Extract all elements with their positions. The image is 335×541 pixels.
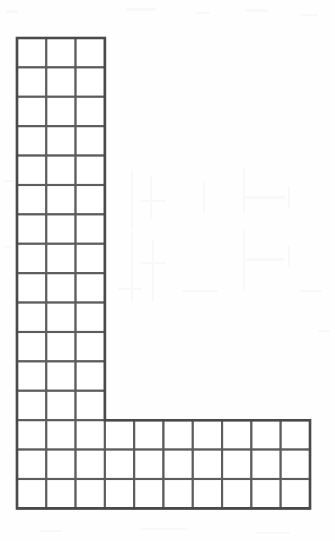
- grid-cell: [17, 361, 46, 390]
- grid-cell: [76, 214, 105, 243]
- grid-cell: [164, 420, 193, 449]
- grid-cell: [46, 156, 75, 185]
- grid-cell: [46, 420, 75, 449]
- grid-cell: [281, 450, 310, 479]
- grid-cell: [76, 67, 105, 96]
- grid-cell: [17, 97, 46, 126]
- grid-cell: [105, 420, 134, 449]
- grid-cell: [17, 332, 46, 361]
- grid-cell: [17, 479, 46, 508]
- grid-cell: [281, 479, 310, 508]
- grid-cell: [76, 273, 105, 302]
- grid-cell: [17, 38, 46, 67]
- grid-cell: [17, 156, 46, 185]
- grid-cell: [251, 420, 280, 449]
- grid-cell: [134, 450, 163, 479]
- scanned-page: [0, 0, 335, 541]
- grid-cell: [76, 450, 105, 479]
- grid-cell: [17, 303, 46, 332]
- grid-cell: [164, 450, 193, 479]
- grid-cell: [251, 479, 280, 508]
- grid-cell: [222, 450, 251, 479]
- grid-cell: [76, 391, 105, 420]
- grid-cell: [46, 97, 75, 126]
- grid-cell: [46, 479, 75, 508]
- grid-cell: [76, 244, 105, 273]
- grid-cell: [46, 273, 75, 302]
- grid-cell: [17, 391, 46, 420]
- grid-cell: [134, 420, 163, 449]
- grid-cell: [17, 67, 46, 96]
- grid-cell: [281, 420, 310, 449]
- grid-cell: [164, 479, 193, 508]
- grid-cell: [46, 332, 75, 361]
- grid-cell: [76, 156, 105, 185]
- grid-cell: [76, 185, 105, 214]
- grid-cell: [193, 420, 222, 449]
- grid-cell: [76, 126, 105, 155]
- grid-cell: [76, 479, 105, 508]
- grid-cell: [17, 420, 46, 449]
- grid-cell: [17, 185, 46, 214]
- grid-cell: [46, 391, 75, 420]
- grid-cell: [17, 214, 46, 243]
- grid-cell: [76, 97, 105, 126]
- grid-cell: [193, 450, 222, 479]
- grid-cell: [134, 479, 163, 508]
- grid-cell: [46, 126, 75, 155]
- grid-cell: [46, 361, 75, 390]
- grid-cell: [46, 38, 75, 67]
- grid-cell: [193, 479, 222, 508]
- grid-cell: [17, 244, 46, 273]
- grid-cell: [46, 67, 75, 96]
- l-shaped-grid-figure: [0, 0, 335, 541]
- grid-cell: [17, 273, 46, 302]
- grid-cell: [46, 303, 75, 332]
- grid-cell: [222, 420, 251, 449]
- grid-cell: [76, 38, 105, 67]
- grid-cell: [76, 420, 105, 449]
- grid-cell: [105, 450, 134, 479]
- grid-cell: [76, 303, 105, 332]
- grid-cell: [17, 450, 46, 479]
- grid-cell: [46, 214, 75, 243]
- grid-cell: [105, 479, 134, 508]
- grid-cell: [46, 185, 75, 214]
- grid-cell: [46, 450, 75, 479]
- grid-cell: [251, 450, 280, 479]
- grid-cell: [46, 244, 75, 273]
- grid-cell: [76, 361, 105, 390]
- grid-cells-layer: [17, 38, 310, 508]
- grid-cell: [222, 479, 251, 508]
- grid-cell: [76, 332, 105, 361]
- grid-cell: [17, 126, 46, 155]
- grid-figure-container: [0, 0, 335, 541]
